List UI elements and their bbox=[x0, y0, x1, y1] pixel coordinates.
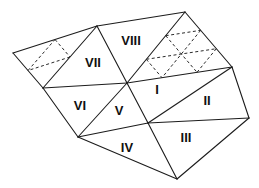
mesh-edge bbox=[97, 12, 185, 26]
dashed-refinement-edge bbox=[166, 30, 201, 35]
region-label-I: I bbox=[155, 82, 159, 97]
region-label-II: II bbox=[203, 93, 210, 108]
region-label-III: III bbox=[181, 130, 192, 145]
region-label-VI: VI bbox=[74, 98, 86, 113]
dashed-refinement-edge bbox=[146, 59, 162, 77]
mesh-edge bbox=[148, 123, 177, 179]
region-label-V: V bbox=[115, 103, 124, 118]
triangulation-diagram: IIIIIIIVVVIVIIVIII bbox=[0, 0, 259, 188]
mesh-edge bbox=[232, 67, 249, 118]
mesh-edge bbox=[148, 67, 232, 123]
region-label-VIII: VIII bbox=[121, 33, 141, 48]
mesh-edge bbox=[127, 83, 148, 123]
region-label-VII: VII bbox=[85, 55, 101, 70]
dashed-refinement-edge bbox=[197, 49, 216, 73]
dashed-refinement-edge bbox=[55, 40, 70, 58]
mesh-edge bbox=[43, 88, 78, 137]
mesh-edge bbox=[127, 67, 232, 83]
diagram-canvas: IIIIIIIVVVIVIIVIII bbox=[0, 0, 259, 188]
mesh-edge bbox=[127, 12, 185, 83]
mesh-edge bbox=[177, 118, 249, 179]
region-label-IV: IV bbox=[121, 140, 134, 155]
mesh-edge bbox=[148, 118, 249, 123]
mesh-edge bbox=[43, 83, 127, 88]
